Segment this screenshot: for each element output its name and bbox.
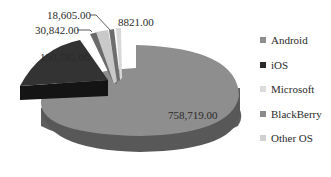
label-other: 8821.00 xyxy=(118,16,154,28)
legend-swatch-blackberry xyxy=(260,111,266,117)
legend-item-blackberry: BlackBerry xyxy=(260,108,322,120)
legend-item-microsoft: Microsoft xyxy=(260,83,322,95)
legend-swatch-android xyxy=(260,37,266,43)
legend-swatch-microsoft xyxy=(260,86,266,92)
legend-label: iOS xyxy=(271,59,288,71)
ios-slice xyxy=(20,40,108,86)
leader-line-blackberry xyxy=(90,15,110,30)
label-microsoft: 30,842.00 xyxy=(35,24,79,36)
legend-swatch-other xyxy=(260,135,266,141)
label-ios: 150,785.00 xyxy=(40,51,90,63)
legend-item-ios: iOS xyxy=(260,59,322,71)
leader-line-microsoft xyxy=(77,30,92,32)
legend-swatch-ios xyxy=(260,62,266,68)
legend-label: Other OS xyxy=(271,132,313,144)
legend-label: BlackBerry xyxy=(271,108,322,120)
legend: Android iOS Microsoft BlackBerry Other O… xyxy=(260,34,322,157)
legend-item-other: Other OS xyxy=(260,132,322,144)
legend-label: Microsoft xyxy=(271,83,314,95)
legend-item-android: Android xyxy=(260,34,322,46)
legend-label: Android xyxy=(271,34,308,46)
label-android: 758,719.00 xyxy=(168,109,218,121)
label-blackberry: 18,605.00 xyxy=(47,9,91,21)
